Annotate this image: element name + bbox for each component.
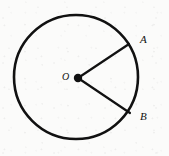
- center-point-dot: [74, 74, 82, 82]
- point-label-a: A: [140, 34, 147, 45]
- center-label-o: O: [62, 72, 69, 82]
- circle-diagram-svg: [0, 0, 169, 156]
- radius-line-ob: [78, 78, 130, 113]
- geometry-figure: O A B: [0, 0, 169, 156]
- point-label-b: B: [140, 111, 147, 122]
- radius-line-oa: [78, 44, 129, 78]
